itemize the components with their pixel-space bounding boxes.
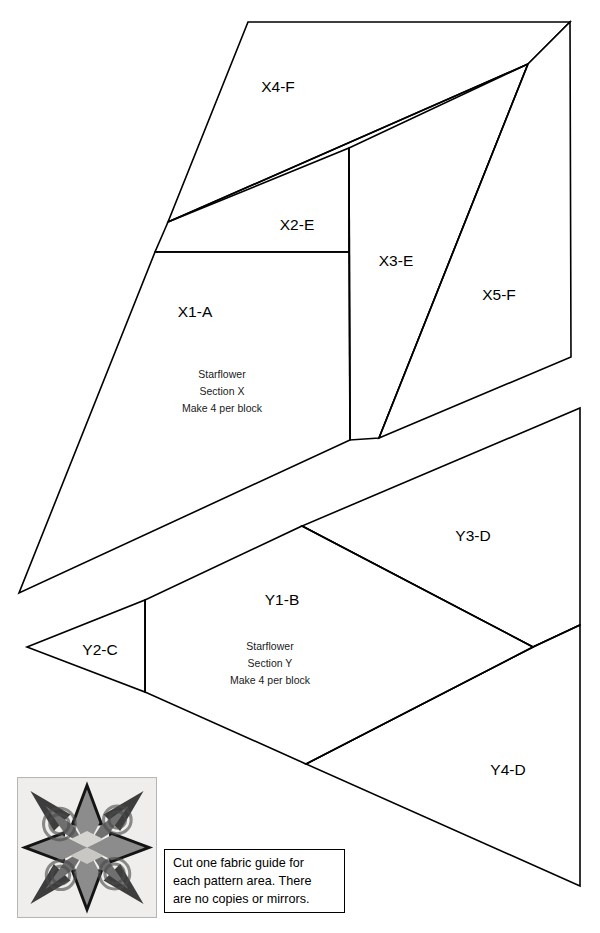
caption-line-1: Cut one fabric guide for — [173, 854, 337, 872]
section-x-note-line-3: Make 4 per block — [182, 402, 263, 414]
divider-x3e-vertical — [349, 148, 350, 440]
section-x-note-line-2: Section X — [200, 385, 245, 397]
caption-line-2: each pattern area. There — [173, 872, 337, 890]
label-x4-f: X4-F — [261, 78, 295, 95]
pattern-sheet: X4-F X2-E X3-E X1-A X5-F Starflower Sect… — [0, 0, 600, 933]
label-y1-b: Y1-B — [265, 591, 299, 608]
instruction-caption-box: Cut one fabric guide for each pattern ar… — [164, 849, 345, 913]
label-y3-d: Y3-D — [455, 527, 490, 544]
label-y2-c: Y2-C — [82, 641, 117, 658]
starflower-block-illustration — [18, 778, 156, 917]
fabric-swatch-photo — [17, 777, 157, 918]
label-x2-e: X2-E — [280, 216, 314, 233]
label-x1-a: X1-A — [178, 303, 213, 320]
section-y-note-line-1: Starflower — [246, 640, 294, 652]
section-y-note-line-2: Section Y — [248, 657, 293, 669]
label-x3-e: X3-E — [379, 252, 413, 269]
section-y-note-line-3: Make 4 per block — [230, 674, 311, 686]
caption-line-3: are no copies or mirrors. — [173, 890, 337, 908]
label-y4-d: Y4-D — [490, 761, 525, 778]
label-x5-f: X5-F — [482, 286, 516, 303]
section-x-note-line-1: Starflower — [198, 368, 246, 380]
